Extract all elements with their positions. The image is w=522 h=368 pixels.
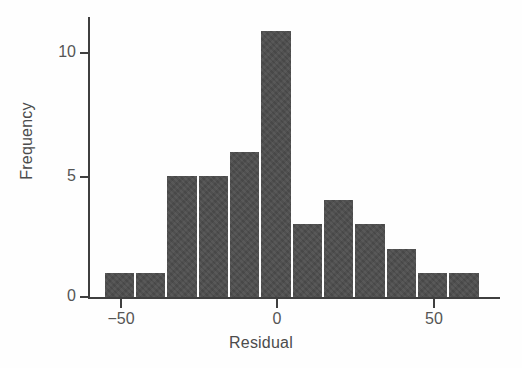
histogram-figure: 10 5 0 −50 0 50 Frequency Residual xyxy=(0,0,522,368)
x-axis-label: Residual xyxy=(0,334,522,352)
histogram-bar xyxy=(387,249,416,297)
y-axis-tick-label-5: 5 xyxy=(40,167,76,185)
x-axis-tick-50 xyxy=(433,299,435,308)
y-axis-tick-0 xyxy=(80,296,89,298)
y-axis-tick-10 xyxy=(80,52,89,54)
histogram-bar xyxy=(324,200,353,297)
y-axis-tick-label-10: 10 xyxy=(40,43,76,61)
histogram-bar xyxy=(199,176,228,297)
x-axis-tick-label-50: 50 xyxy=(404,310,464,328)
plot-area: 10 5 0 −50 0 50 xyxy=(0,0,522,368)
x-axis-tick-label-0: 0 xyxy=(247,310,307,328)
histogram-bar xyxy=(293,224,322,297)
histogram-bar xyxy=(136,273,165,297)
histogram-bar xyxy=(261,31,290,297)
y-axis-tick-label-0: 0 xyxy=(40,287,76,305)
x-axis-tick-label-neg50: −50 xyxy=(91,310,151,328)
y-axis-tick-5 xyxy=(80,176,89,178)
histogram-bar xyxy=(167,176,196,297)
x-axis-tick-0 xyxy=(276,299,278,308)
y-axis-label: Frequency xyxy=(18,81,36,201)
histogram-bar xyxy=(418,273,447,297)
x-axis-tick-neg50 xyxy=(120,299,122,308)
histogram-bar xyxy=(230,152,259,297)
x-axis-line xyxy=(88,297,500,299)
histogram-bar xyxy=(355,224,384,297)
histogram-bar xyxy=(105,273,134,297)
histogram-bar xyxy=(449,273,478,297)
y-axis-line xyxy=(88,17,90,298)
